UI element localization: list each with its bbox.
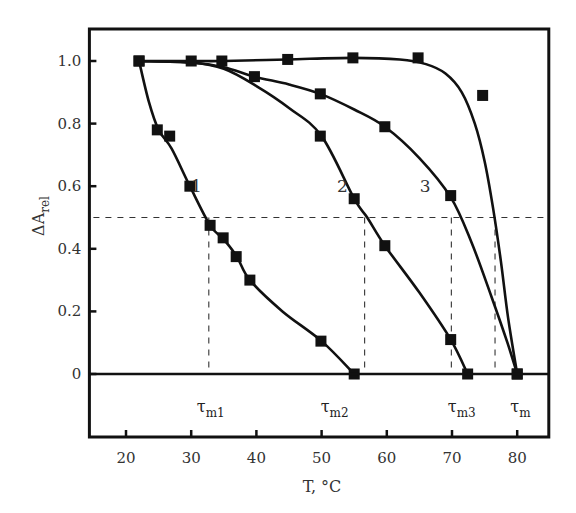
y-tick-label: 1.0: [58, 52, 82, 70]
y-tick-label: 0: [72, 365, 82, 383]
tau-subscript: m1: [206, 406, 225, 420]
data-point-marker: [347, 52, 358, 63]
tau-subscript: m: [519, 406, 531, 420]
y-tick-label: 0.2: [58, 302, 82, 320]
data-point-marker: [205, 220, 216, 231]
tau-symbol: τ: [510, 397, 519, 416]
data-point-marker: [445, 190, 456, 201]
x-tick-label: 20: [116, 449, 135, 467]
data-point-marker: [249, 71, 260, 82]
data-point-marker: [134, 56, 145, 67]
data-point-marker: [445, 334, 456, 345]
tau-subscript: m2: [330, 406, 349, 420]
fitted-curves: [139, 58, 517, 374]
data-markers: [134, 52, 523, 379]
tau-label-m2: τm2: [321, 397, 349, 420]
data-point-marker: [216, 56, 227, 67]
data-point-marker: [477, 90, 488, 101]
data-point-marker: [282, 54, 293, 65]
y-tick-label: 0.8: [58, 115, 82, 133]
data-point-marker: [315, 88, 326, 99]
data-point-marker: [152, 124, 163, 135]
x-tick-label: 80: [508, 449, 527, 467]
curve-3: [139, 61, 517, 374]
tau-label-m3: τm3: [448, 397, 476, 420]
curve-label-1: 1: [191, 176, 202, 196]
tau-label-m1: τm1: [197, 397, 225, 420]
half-level-guides: [93, 218, 548, 375]
curve-number-labels: 123: [191, 176, 431, 196]
y-tick-label: 0.6: [58, 177, 82, 195]
curve-label-2: 2: [337, 176, 348, 196]
y-tick-label: 0.4: [58, 240, 82, 258]
data-point-marker: [413, 52, 424, 63]
data-point-marker: [379, 121, 390, 132]
tau-label-m: τm: [510, 397, 531, 420]
x-axis-title: T, °C: [303, 477, 342, 496]
y-axis-title: ΔArel: [29, 196, 52, 236]
tau-subscript: m3: [457, 406, 476, 420]
data-point-marker: [164, 131, 175, 142]
curve-label-3: 3: [420, 176, 431, 196]
x-tick-label: 60: [377, 449, 396, 467]
data-point-marker: [244, 275, 255, 286]
x-tick-label: 40: [247, 449, 266, 467]
y-axis-title-sub: rel: [38, 196, 52, 213]
y-axis-title-main: ΔA: [29, 212, 48, 236]
x-tick-label: 30: [182, 449, 201, 467]
data-point-marker: [315, 131, 326, 142]
data-point-marker: [186, 56, 197, 67]
midpoint-tau-labels: τm1τm2τm3τm: [197, 397, 531, 420]
chart-container: 2030405060708000.20.40.60.81.0 123 τm1τm…: [0, 0, 576, 513]
tau-symbol: τ: [321, 397, 330, 416]
data-point-marker: [231, 251, 242, 262]
denaturation-curve-chart: 2030405060708000.20.40.60.81.0 123 τm1τm…: [0, 0, 576, 513]
data-point-marker: [218, 232, 229, 243]
x-tick-label: 70: [442, 449, 461, 467]
data-point-marker: [315, 336, 326, 347]
tau-symbol: τ: [197, 397, 206, 416]
data-point-marker: [379, 240, 390, 251]
x-tick-label: 50: [312, 449, 331, 467]
tau-symbol: τ: [448, 397, 457, 416]
data-point-marker: [349, 193, 360, 204]
